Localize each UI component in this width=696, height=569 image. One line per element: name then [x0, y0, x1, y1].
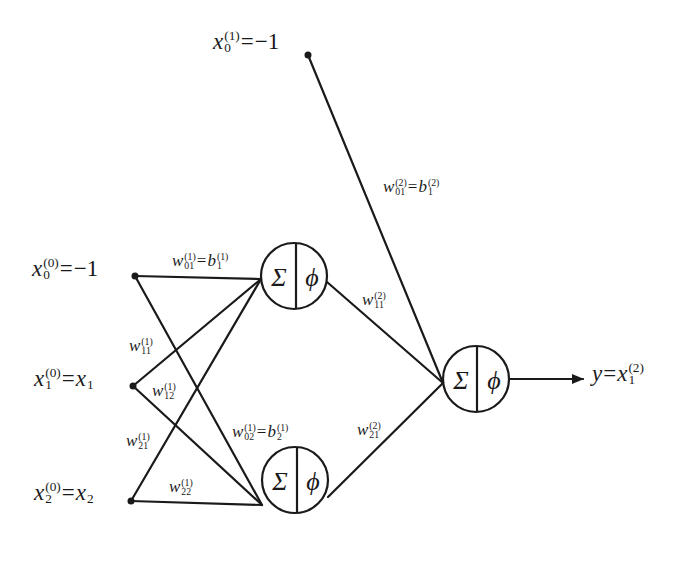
bias-label-layer1: x(1)0=−1	[213, 30, 279, 56]
input-node-x2	[128, 498, 135, 505]
sum-icon: Σ	[270, 263, 287, 292]
weight-label-w22-1: w(1)22	[169, 478, 193, 497]
input-node-x0	[132, 273, 139, 280]
hidden-neuron-2: Σ ϕ	[262, 447, 328, 513]
input-label-x1: x(0)1=x 1	[34, 367, 94, 393]
edge-x1-h1	[133, 279, 261, 386]
weight-label-w01-2: w(2)01=b(2)1	[383, 178, 439, 197]
edge-x0-h1	[135, 276, 261, 279]
output-neuron: Σ ϕ	[443, 346, 509, 412]
input-node-x1	[130, 383, 137, 390]
edge-x2-h2	[131, 501, 262, 505]
edge-h2-o1	[328, 383, 443, 497]
bias-node-layer1	[305, 52, 312, 59]
weight-label-w02-1: w(1)02=b(1)2	[232, 423, 288, 442]
weight-label-w12-1: w(1)12	[152, 382, 176, 401]
output-label: y=x(2)1	[592, 362, 644, 388]
weight-label-w21-1: w(1)21	[126, 432, 150, 451]
input-label-x0: x(0)0=−1	[32, 257, 98, 283]
activation-icon: ϕ	[305, 263, 318, 292]
edge-x1-h2	[133, 386, 262, 505]
hidden-neuron-1: Σ ϕ	[261, 243, 327, 309]
sum-icon: Σ	[271, 467, 288, 496]
weight-label-w11-1: w(1)11	[129, 337, 153, 356]
network-diagram: Σ ϕ Σ ϕ Σ ϕ	[0, 0, 696, 569]
weight-label-w11-2: w(2)11	[362, 291, 386, 310]
weight-label-w21-2: w(2)21	[357, 421, 381, 440]
edge-bias2-o1	[308, 55, 443, 383]
weight-label-w01-1: w(1)01=b(1)1	[172, 252, 228, 271]
sum-icon: Σ	[452, 366, 469, 395]
activation-icon: ϕ	[487, 366, 500, 395]
activation-icon: ϕ	[306, 467, 319, 496]
input-label-x2: x(0)2=x 2	[34, 481, 94, 507]
